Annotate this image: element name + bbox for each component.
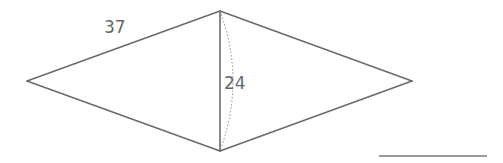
edge-left-bottom bbox=[27, 81, 220, 151]
diagonal-length-label: 24 bbox=[224, 73, 246, 93]
edge-top-right bbox=[220, 11, 412, 81]
side-length-label: 37 bbox=[104, 17, 126, 37]
rhombus-diagram: 37 24 bbox=[0, 0, 503, 163]
edge-bottom-right bbox=[220, 81, 412, 151]
